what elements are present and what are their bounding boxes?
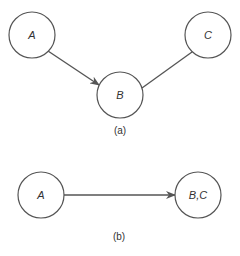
- node-b-label: B: [116, 89, 123, 101]
- node-a: A: [9, 12, 55, 58]
- diagram-b: A B,C (b): [18, 172, 221, 242]
- edge-a-to-b: [48, 51, 99, 85]
- diagram-a: A B C (a): [9, 12, 231, 136]
- node-a-bottom: A: [18, 172, 64, 218]
- node-c: C: [185, 12, 231, 58]
- node-a-label: A: [27, 29, 35, 41]
- node-bc-label: B,C: [189, 189, 207, 201]
- node-c-label: C: [204, 29, 212, 41]
- edge-c-to-b: [142, 52, 192, 88]
- node-a-bottom-label: A: [36, 189, 44, 201]
- node-b: B: [97, 72, 143, 118]
- caption-a: (a): [114, 125, 126, 136]
- diagram-canvas: A B C (a) A B,C (b): [0, 0, 240, 256]
- caption-b: (b): [113, 231, 125, 242]
- node-bc: B,C: [175, 172, 221, 218]
